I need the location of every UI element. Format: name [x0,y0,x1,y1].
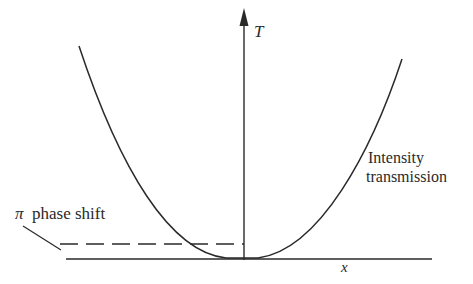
transmission-curve [79,46,402,258]
transmission-diagram: T x Intensity transmission π phase shift [0,0,473,284]
phase-shift-leader-line [23,226,61,250]
phase-shift-label: phase shift [32,204,105,223]
t-axis-arrow-icon [240,8,249,26]
t-axis-label: T [254,22,265,41]
phase-shift-symbol: π [15,204,24,223]
x-axis-label: x [340,259,348,275]
curve-label-line2: transmission [366,168,447,185]
curve-label-line1: Intensity [368,149,424,167]
